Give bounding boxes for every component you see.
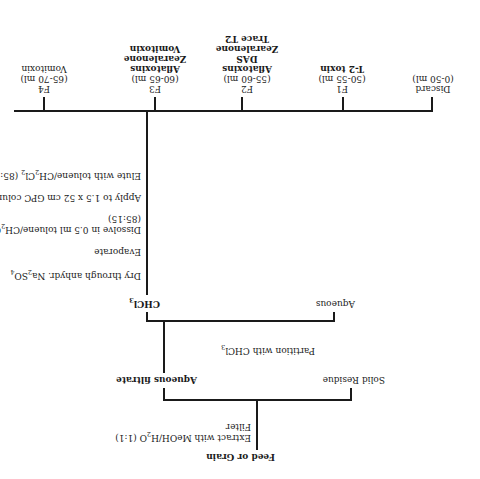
root-node: Feed or Grain — [206, 452, 275, 462]
step-elute: Elute with toluene/CH2Cl2 (85:15) — [0, 171, 141, 181]
step-apply-gpc: Apply to 1.5 x 52 cm GPC column — [0, 193, 141, 203]
connector-solid — [351, 388, 353, 401]
fraction-f1: F1 (50-55 ml) T-2 toxin — [318, 64, 365, 94]
fraction-f2: F2 (55-60 ml) Aflatoxins DAS Zearalenone… — [216, 34, 279, 94]
tick-discard — [432, 97, 434, 112]
step-dry: Dry through anhydr. Na2SO4 — [10, 271, 141, 281]
branch2-bar — [147, 321, 335, 323]
flowchart-canvas: Feed or Grain Extract with MeOH/H2O (1:1… — [0, 0, 480, 479]
connector-aqfiltrate — [164, 388, 166, 401]
node-aqueous-filtrate: Aqueous filtrate — [116, 375, 197, 385]
connector-partition — [164, 321, 166, 373]
node-chcl3: CHCl3 — [129, 299, 160, 309]
tick-f1 — [343, 97, 345, 112]
fraction-f3: F3 (60-65 ml) Aflatoxins Zearalenone Vom… — [124, 44, 187, 94]
tick-f3 — [155, 97, 157, 112]
step-dissolve-ratio: (85:15) — [108, 214, 141, 224]
tick-f2 — [242, 97, 244, 112]
fraction-discard: Discard (0-50 ml) — [412, 74, 454, 94]
connector-root — [257, 400, 259, 450]
step-partition: Partition with CHCl3 — [221, 346, 315, 356]
fraction-f4: F4 (65-70 ml) Vomitoxin — [20, 64, 67, 94]
node-solid-residue: Solid Residue — [323, 375, 385, 385]
node-aqueous: Aqueous — [316, 299, 355, 309]
step-filter: Filter — [226, 422, 251, 432]
connector-steps — [147, 111, 149, 295]
connector-aqueous — [334, 312, 336, 322]
connector-chcl3 — [147, 312, 149, 322]
step-evaporate: Evaporate — [94, 247, 141, 257]
step-extract: Extract with MeOH/H2O (1:1) — [115, 433, 251, 443]
step-dissolve: Dissolve in 0.5 ml toluene/CH2Cl2 — [0, 225, 141, 235]
tick-f4 — [44, 97, 46, 112]
branch1-bar — [164, 400, 352, 402]
fraction-bar — [14, 111, 433, 113]
